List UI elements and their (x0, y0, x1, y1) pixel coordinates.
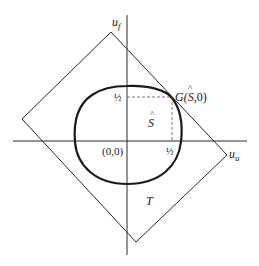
diagram-canvas: uf uu (0,0) ½ ½ ^ S T G(S,0) ^ (0, 0, 259, 266)
vertical-axis-label: uf (112, 15, 122, 31)
origin-label: (0,0) (102, 145, 123, 158)
tick-half-x: ½ (166, 146, 174, 157)
region-T-rectangle (22, 32, 227, 242)
region-S-curve (75, 86, 182, 184)
horizontal-axis-label: uu (229, 147, 240, 163)
region-T-label: T (146, 194, 154, 208)
region-S-label: S (148, 116, 154, 130)
tick-half-y: ½ (114, 92, 122, 103)
